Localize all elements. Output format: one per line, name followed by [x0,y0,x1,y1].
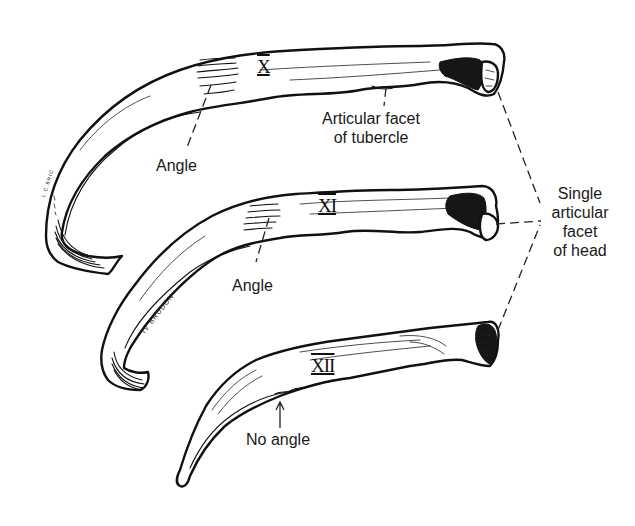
head-facet-leader-x [498,92,540,203]
no-angle-arrow [276,402,284,428]
single-articular-facet-head-label: Single articular facet of head [540,184,620,260]
articular-facet-tubercle-label: Articular facet of tubercle [306,109,436,147]
rib-xii-numeral: XII [311,356,334,376]
rib-diagram: X XI XII Angle Angle No angle Articular … [0,0,635,526]
rib-xi-head-facet [480,214,498,240]
single-facet-line-3: facet [540,222,620,241]
tubercle-leader [384,88,386,106]
single-facet-line-1: Single [540,184,620,203]
rib-xi-angle-label: Angle [232,276,273,295]
rib-x-angle-label: Angle [156,156,197,175]
articular-facet-tubercle-line-2: of tubercle [306,128,436,147]
articular-facet-tubercle-line-1: Articular facet [306,109,436,128]
rib-x-numeral: X [257,57,270,77]
rib-x-head-facet [481,62,498,93]
single-facet-line-2: articular [540,203,620,222]
rib-illustration [0,0,635,526]
rib-xii-no-angle-label: No angle [246,430,310,449]
single-facet-line-4: of head [540,241,620,260]
rib-xi-numeral: XI [318,196,336,216]
head-facet-leader-xii [498,225,540,330]
rib-xii-body [177,322,499,487]
rib-xii-drawing [177,322,499,487]
head-facet-leader-xi [496,221,541,224]
